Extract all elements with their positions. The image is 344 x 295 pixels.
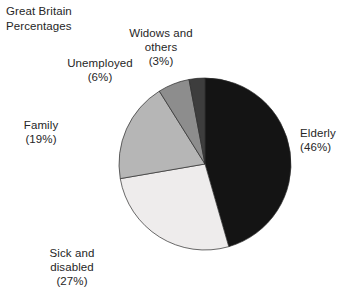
pie-label-elderly: Elderly (46%): [300, 126, 336, 154]
pie-label-family: Family (19%): [24, 118, 58, 146]
pie-label-sick-and-disabled: Sick and disabled (27%): [50, 246, 95, 288]
pie-label-widows-and-others: Widows and others (3%): [129, 26, 193, 68]
pie-label-unemployed: Unemployed (6%): [67, 56, 133, 84]
pie-chart-figure: Great Britain Percentages Elderly (46%)S…: [0, 0, 344, 295]
